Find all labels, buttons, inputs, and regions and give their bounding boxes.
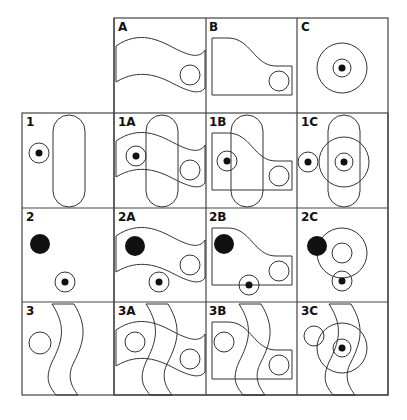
cell-1: 1: [26, 115, 85, 207]
cell-1A: 1A: [116, 115, 205, 207]
cell-label: 2B: [209, 210, 227, 224]
cell-label: 2A: [118, 210, 136, 224]
target-shape: [317, 43, 367, 93]
cell-label: 1B: [209, 115, 227, 129]
cell-label: 1: [26, 115, 34, 129]
cell-C: C: [301, 20, 367, 93]
cell-2A: 2A: [116, 210, 205, 292]
cell-label: 3: [26, 304, 34, 318]
cell-label: 2: [26, 210, 34, 224]
cell-1B: 1B: [209, 115, 292, 207]
cell-2C: 2C: [301, 210, 367, 291]
cell-label: 1A: [118, 115, 136, 129]
cell-label: 1C: [301, 115, 318, 129]
cell-label: B: [209, 20, 218, 34]
banner-shape: [116, 37, 205, 91]
cell-3B: 3B: [209, 304, 292, 395]
cell-A: A: [116, 20, 205, 92]
cell-2B: 2B: [209, 210, 292, 295]
cell-2: 2: [26, 210, 75, 292]
cell-label: A: [118, 20, 128, 34]
plate-shape: [212, 38, 292, 95]
cell-3A: 3A: [116, 304, 205, 395]
cell-B: B: [209, 20, 292, 95]
cell-label: 2C: [301, 210, 318, 224]
cell-label: 3C: [301, 304, 318, 318]
cell-3C: 3C: [301, 304, 367, 395]
cell-label: 3B: [209, 304, 227, 318]
combination-grid-diagram: A B C 1 1A 1B 1C 2 2A: [0, 0, 407, 420]
cell-1C: 1C: [298, 115, 369, 207]
cell-label: 3A: [118, 304, 136, 318]
cell-label: C: [301, 20, 310, 34]
cell-3: 3: [26, 304, 83, 395]
